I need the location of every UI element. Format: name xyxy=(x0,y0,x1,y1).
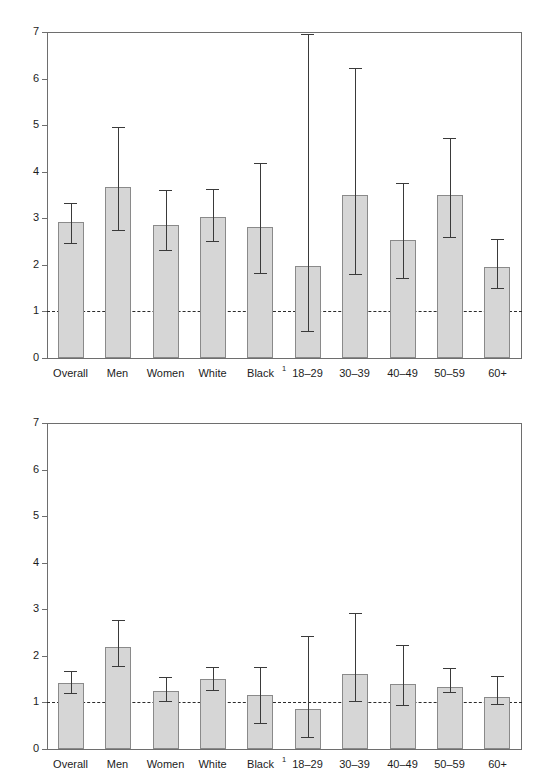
error-bar-cap-lower xyxy=(443,692,456,693)
x-axis-tick-label: Overall xyxy=(47,367,94,379)
error-bar-cap-upper xyxy=(112,620,125,621)
y-axis-tick xyxy=(42,358,47,359)
plot-right-border xyxy=(521,423,522,750)
error-bar-stem xyxy=(71,671,72,693)
error-bar-cap-lower xyxy=(349,274,362,275)
error-bar-cap-lower xyxy=(159,250,172,251)
y-axis-tick-label: 0 xyxy=(19,743,39,754)
error-bar-cap-lower xyxy=(64,693,77,694)
error-bar-stem xyxy=(166,677,167,701)
error-bar-stem xyxy=(450,668,451,692)
error-bar-stem xyxy=(213,189,214,241)
error-bar-cap-lower xyxy=(349,701,362,702)
error-bar-cap-lower xyxy=(112,230,125,231)
y-axis-tick xyxy=(42,218,47,219)
error-bar-stem xyxy=(213,667,214,690)
error-bar-cap-upper xyxy=(396,183,409,184)
error-bar-cap-upper xyxy=(159,190,172,191)
x-axis-line xyxy=(47,749,522,750)
x-axis-tick-label: 60+ xyxy=(474,758,521,770)
y-axis-tick xyxy=(42,609,47,610)
x-axis-tick-label: Men xyxy=(94,367,141,379)
error-bar-stem xyxy=(260,667,261,723)
error-bar-cap-lower xyxy=(112,666,125,667)
error-bar-stem xyxy=(450,138,451,237)
error-bar-stem xyxy=(308,34,309,331)
x-axis-tick-label: 18–29 xyxy=(284,758,331,770)
x-axis-tick-label: 30–39 xyxy=(331,367,378,379)
error-bar-cap-upper xyxy=(491,239,504,240)
bar[interactable] xyxy=(437,687,463,749)
error-bar-cap-upper xyxy=(443,668,456,669)
y-axis-tick-label: 1 xyxy=(19,696,39,707)
x-axis-tick-label: White xyxy=(189,758,236,770)
y-axis-tick-label: 6 xyxy=(19,464,39,475)
x-axis-tick-label: White xyxy=(189,367,236,379)
x-axis-tick-label: 40–49 xyxy=(379,758,426,770)
error-bar-cap-upper xyxy=(206,667,219,668)
y-axis-tick xyxy=(42,423,47,424)
error-bar-cap-lower xyxy=(64,243,77,244)
x-axis-tick-label: 60+ xyxy=(474,367,521,379)
y-axis-line xyxy=(47,423,48,750)
error-bar-cap-lower xyxy=(206,241,219,242)
y-axis-tick xyxy=(42,172,47,173)
x-axis-tick-label: Women xyxy=(142,758,189,770)
error-bar-stem xyxy=(71,203,72,243)
error-bar-cap-upper xyxy=(64,203,77,204)
error-bar-cap-lower xyxy=(491,704,504,705)
error-bar-cap-upper xyxy=(443,138,456,139)
x-axis-tick-label: Women xyxy=(142,367,189,379)
error-bar-cap-upper xyxy=(491,676,504,677)
y-axis-tick xyxy=(42,32,47,33)
x-axis-tick-label: Black xyxy=(237,367,284,379)
error-bar-cap-lower xyxy=(254,723,267,724)
error-bar-cap-lower xyxy=(396,705,409,706)
error-bar-stem xyxy=(403,183,404,278)
y-axis-tick-label: 6 xyxy=(19,73,39,84)
error-bar-stem xyxy=(308,636,309,737)
error-bar-stem xyxy=(497,239,498,288)
y-axis-tick-label: 4 xyxy=(19,166,39,177)
error-bar-cap-lower xyxy=(254,273,267,274)
chart-panel-top: 01234567OverallMenWomenWhiteBlack118–293… xyxy=(0,0,546,392)
y-axis-tick xyxy=(42,265,47,266)
x-axis-line xyxy=(47,358,522,359)
y-axis-tick-label: 2 xyxy=(19,650,39,661)
y-axis-tick-label: 1 xyxy=(19,305,39,316)
y-axis-tick xyxy=(42,749,47,750)
plot-top-border xyxy=(47,32,522,33)
y-axis-tick-label: 7 xyxy=(19,417,39,428)
y-axis-tick xyxy=(42,563,47,564)
x-axis-tick-label: 50–59 xyxy=(426,367,473,379)
y-axis-tick-label: 7 xyxy=(19,26,39,37)
y-axis-tick xyxy=(42,125,47,126)
error-bar-cap-upper xyxy=(159,677,172,678)
x-axis-tick-label: Black xyxy=(237,758,284,770)
x-axis-tick-label: 40–49 xyxy=(379,367,426,379)
error-bar-cap-lower xyxy=(491,288,504,289)
y-axis-tick-label: 0 xyxy=(19,352,39,363)
error-bar-cap-upper xyxy=(112,127,125,128)
error-bar-stem xyxy=(355,68,356,274)
error-bar-stem xyxy=(403,645,404,705)
error-bar-cap-upper xyxy=(349,613,362,614)
error-bar-cap-upper xyxy=(301,34,314,35)
y-axis-tick-label: 5 xyxy=(19,510,39,521)
y-axis-tick-label: 3 xyxy=(19,603,39,614)
x-axis-tick-label: Overall xyxy=(47,758,94,770)
error-bar-stem xyxy=(118,620,119,666)
x-axis-tick-label: 30–39 xyxy=(331,758,378,770)
error-bar-cap-upper xyxy=(254,667,267,668)
x-axis-tick-label: 18–29 xyxy=(284,367,331,379)
y-axis-tick-label: 5 xyxy=(19,119,39,130)
y-axis-tick-label: 4 xyxy=(19,557,39,568)
chart-panel-bottom: 01234567OverallMenWomenWhiteBlack118–293… xyxy=(0,391,546,783)
plot-top-border xyxy=(47,423,522,424)
error-bar-stem xyxy=(166,190,167,250)
y-axis-tick xyxy=(42,470,47,471)
y-axis-tick xyxy=(42,516,47,517)
error-bar-cap-upper xyxy=(396,645,409,646)
error-bar-cap-upper xyxy=(301,636,314,637)
plot-right-border xyxy=(521,32,522,359)
